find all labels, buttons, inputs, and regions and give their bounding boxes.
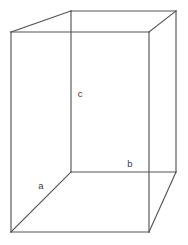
label-depth-a: a <box>38 180 44 191</box>
label-height-c: c <box>78 88 83 99</box>
cuboid-figure: a b c <box>0 0 188 245</box>
cuboid-svg-canvas: a b c <box>0 0 188 245</box>
label-width-b: b <box>127 158 132 169</box>
